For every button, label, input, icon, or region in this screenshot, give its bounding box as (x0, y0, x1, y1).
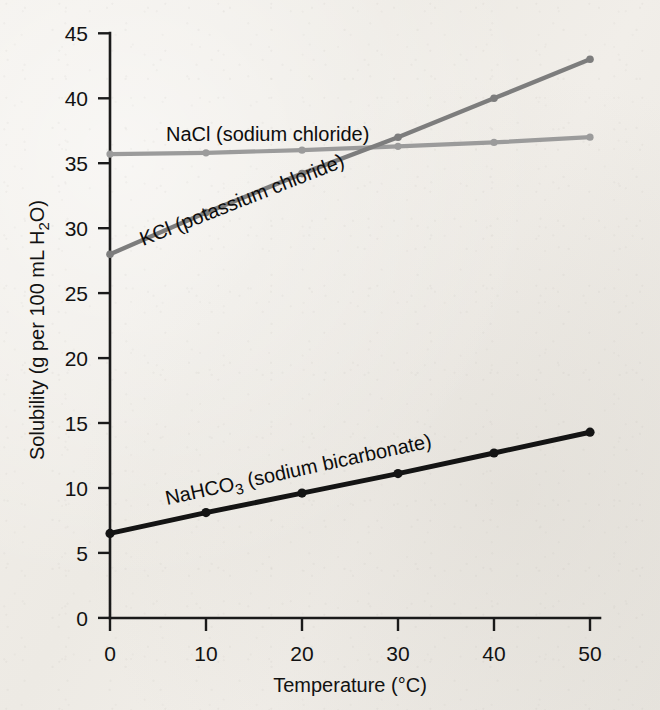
y-tick-label-5: 5 (76, 542, 88, 565)
nahco3-series-label: NaHCO3 (sodium bicarbonate) (163, 430, 434, 513)
nacl-point-50 (586, 134, 593, 141)
nahco3-point-20 (297, 489, 306, 498)
y-tick-label-10: 10 (65, 477, 88, 500)
nacl-point-20 (298, 147, 305, 154)
kcl-series-label: KCl (potassium chloride) (136, 149, 347, 249)
y-tick-label-25: 25 (65, 282, 88, 305)
x-tick-label-30: 30 (386, 642, 409, 665)
nacl-series-label: NaCl (sodium chloride) (166, 123, 369, 145)
chart-plot-area: 45 40 35 30 25 20 15 10 5 0 0 10 20 30 4… (0, 0, 660, 710)
axis-lines (110, 33, 600, 618)
nahco3-series-label-group: NaHCO3 (sodium bicarbonate) (163, 430, 434, 513)
nahco3-point-0 (105, 529, 114, 538)
x-tick-label-50: 50 (578, 642, 601, 665)
nacl-point-10 (202, 149, 209, 156)
kcl-point-50 (586, 56, 594, 64)
y-tick-label-45: 45 (65, 22, 88, 45)
x-axis-ticks (110, 618, 590, 631)
solubility-chart-figure: 45 40 35 30 25 20 15 10 5 0 0 10 20 30 4… (0, 0, 660, 710)
nahco3-point-10 (201, 508, 210, 517)
nahco3-point-40 (489, 448, 498, 457)
x-axis-tick-labels: 0 10 20 30 40 50 (104, 642, 602, 665)
nacl-point-40 (490, 139, 497, 146)
y-tick-label-15: 15 (65, 412, 88, 435)
nahco3-point-30 (393, 469, 402, 478)
kcl-point-0 (106, 250, 114, 258)
y-axis-title: Solubility (g per 100 mL H2O) (26, 200, 52, 460)
x-tick-label-0: 0 (104, 642, 116, 665)
kcl-point-30 (394, 133, 402, 141)
nahco3-label-formula: NaHCO (163, 472, 236, 508)
series-nahco3 (105, 428, 594, 538)
x-tick-label-40: 40 (482, 642, 505, 665)
kcl-point-40 (490, 95, 498, 103)
nacl-point-0 (106, 151, 113, 158)
x-tick-label-10: 10 (194, 642, 217, 665)
y-tick-label-40: 40 (65, 87, 88, 110)
y-tick-label-30: 30 (65, 217, 88, 240)
y-tick-label-35: 35 (65, 152, 88, 175)
x-axis-title: Temperature (°C) (273, 674, 427, 696)
nacl-point-30 (394, 143, 401, 150)
kcl-series-label-group: KCl (potassium chloride) (136, 149, 347, 249)
y-tick-label-20: 20 (65, 347, 88, 370)
nahco3-point-50 (585, 428, 594, 437)
y-tick-label-0: 0 (76, 607, 88, 630)
y-axis-title-group: Solubility (g per 100 mL H2O) (26, 200, 52, 460)
x-tick-label-20: 20 (290, 642, 313, 665)
y-axis-tick-labels: 45 40 35 30 25 20 15 10 5 0 (65, 22, 88, 630)
nahco3-label-name: (sodium bicarbonate) (240, 430, 434, 493)
